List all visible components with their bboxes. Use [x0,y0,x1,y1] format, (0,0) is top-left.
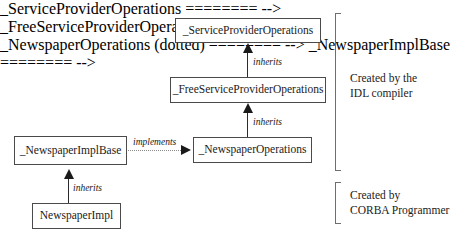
inheritance-arrowhead-fspo-to-spo [243,43,253,53]
implements-line-nib-to-npo [128,150,181,151]
group-label-line-2: IDL compiler [350,86,417,101]
group-label-line-1: Created by the [350,71,417,86]
group-bracket-corba-programmer [335,182,341,224]
edge-label-implements-nib-to-npo: implements [133,137,176,147]
implements-arrowhead-nib-to-npo [181,145,191,155]
edge-label-inherits-npo-to-fspo: inherits [253,117,282,127]
class-box-newspaper-impl-base[interactable]: _NewspaperImplBase [14,136,127,165]
class-box-label: _ServiceProviderOperations [183,25,313,37]
class-box-service-provider-operations[interactable]: _ServiceProviderOperations [175,18,321,43]
inherits-line-fspo-to-spo [247,52,248,77]
inheritance-arrowhead-ni-to-nib [64,169,74,179]
group-label-corba-programmer: Created by CORBA Programmer [350,188,449,218]
class-box-free-service-provider-operations[interactable]: _FreeServiceProviderOperations [170,77,326,103]
class-box-label: _NewspaperImplBase [20,145,122,157]
inheritance-arrowhead-npo-to-fspo [243,103,253,113]
inherits-line-npo-to-fspo [247,112,248,137]
group-label-idl-compiler: Created by the IDL compiler [350,71,417,101]
group-label-line-1: Created by [350,188,449,203]
class-box-label: _NewspaperOperations [199,144,307,156]
edge-label-inherits-ni-to-nib: inherits [73,183,102,193]
inherits-line-ni-to-nib [68,178,69,203]
class-box-newspaper-operations[interactable]: _NewspaperOperations [193,137,312,163]
class-box-label: _FreeServiceProviderOperations [173,84,324,96]
group-bracket-idl-compiler [335,13,341,171]
group-label-line-2: CORBA Programmer [350,203,449,218]
class-box-newspaper-impl[interactable]: NewspaperImpl [32,203,121,229]
class-diagram-canvas: _ServiceProviderOperations _FreeServiceP… [0,0,450,238]
edge-label-inherits-fspo-to-spo: inherits [253,57,282,67]
class-box-label: NewspaperImpl [40,210,113,222]
